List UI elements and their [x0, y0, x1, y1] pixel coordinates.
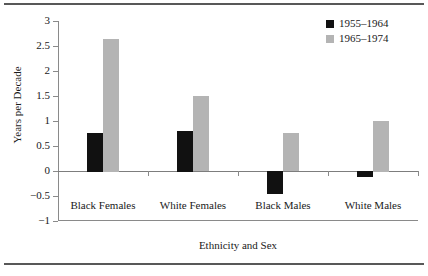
- x-axis-frame-line: [58, 220, 418, 221]
- x-axis-tick: [238, 171, 239, 176]
- legend-item: 1965–1974: [326, 32, 389, 45]
- black-swatch: [326, 20, 334, 28]
- chart-legend: 1955–19641965–1974: [326, 17, 389, 47]
- bar-1-3: [373, 121, 389, 172]
- y-axis-tick-label: −1: [8, 215, 50, 226]
- x-axis-tick: [418, 171, 419, 176]
- y-axis-tick: [53, 221, 58, 222]
- x-axis-tick: [328, 171, 329, 176]
- bar-1-2: [283, 133, 299, 171]
- x-axis-category-label: Black Males: [238, 199, 328, 211]
- y-axis-tick: [53, 146, 58, 147]
- x-axis-category-label: Black Females: [58, 199, 148, 211]
- bar-0-1: [177, 131, 193, 172]
- y-axis-tick: [53, 96, 58, 97]
- x-axis-title: Ethnicity and Sex: [58, 239, 418, 251]
- y-axis-title: Years per Decade: [11, 40, 23, 170]
- y-axis-line: [58, 21, 59, 221]
- legend-label: 1955–1964: [339, 18, 389, 29]
- bar-0-3: [357, 171, 373, 177]
- x-axis-category-label: White Males: [328, 199, 418, 211]
- top-divider-rule: [4, 3, 424, 5]
- x-axis-category-label: White Females: [148, 199, 238, 211]
- bar-1-0: [103, 39, 119, 172]
- bottom-divider-rule: [4, 263, 424, 265]
- y-axis-tick: [53, 46, 58, 47]
- y-axis-tick-label: 3: [8, 15, 50, 26]
- legend-item: 1955–1964: [326, 17, 389, 30]
- y-axis-tick: [53, 21, 58, 22]
- y-axis-tick: [53, 196, 58, 197]
- bar-0-0: [87, 133, 103, 172]
- bar-0-2: [267, 171, 283, 194]
- bar-1-1: [193, 96, 209, 171]
- y-axis-tick: [53, 121, 58, 122]
- legend-label: 1965–1974: [339, 33, 389, 44]
- x-axis-tick: [148, 171, 149, 176]
- gray-swatch: [326, 35, 334, 43]
- y-axis-tick: [53, 71, 58, 72]
- chart-figure: 32.521.510.50−0.5−1 Black FemalesWhite F…: [0, 0, 428, 276]
- y-axis-tick-label: −0.5: [8, 190, 50, 201]
